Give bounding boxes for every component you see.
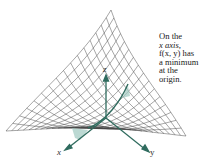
axes [65, 75, 149, 152]
caption-line: origin. [159, 75, 198, 84]
x-axis-label: x [57, 147, 61, 157]
y-axis-arrow-icon [142, 145, 149, 152]
z-axis-label: z [103, 64, 107, 74]
y-axis [106, 118, 146, 150]
y-axis-label: y [150, 147, 155, 157]
figure-caption: On the x axis, f(x, y) has a minimum at … [159, 32, 198, 84]
